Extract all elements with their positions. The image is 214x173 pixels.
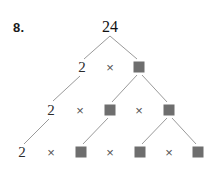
tree-edge-row2-rbox-to-bbox1 <box>142 118 167 144</box>
tree-edge-root-to-right-box <box>110 36 137 59</box>
row3-item4-blank-square[interactable] <box>135 147 146 158</box>
tree-root-number: 24 <box>102 18 118 36</box>
row2-item4-blank-square[interactable] <box>164 105 175 116</box>
factor-tree-worksheet: 8. 242×2××2××× <box>0 0 214 173</box>
row2-item1-multiply-sign: × <box>76 104 84 117</box>
tree-edge-box1-to-right-box <box>142 75 167 102</box>
row2-item0-factor-number: 2 <box>47 102 55 119</box>
row1-item0-factor-number: 2 <box>78 59 86 76</box>
tree-edge-box1-to-left-box <box>112 75 137 102</box>
row3-item5-multiply-sign: × <box>165 146 173 159</box>
row3-item0-factor-number: 2 <box>18 144 26 161</box>
tree-edge-row2-box-to-bottom-box <box>83 118 108 144</box>
tree-edge-left2-to-left2 <box>53 76 80 101</box>
row1-item1-multiply-sign: × <box>106 61 114 74</box>
row2-item3-multiply-sign: × <box>135 104 143 117</box>
tree-edge-root-to-left-2 <box>84 36 110 59</box>
row3-item6-blank-square[interactable] <box>193 147 204 158</box>
row3-item2-blank-square[interactable] <box>76 147 87 158</box>
row2-item2-blank-square[interactable] <box>105 105 116 116</box>
row1-item2-blank-square[interactable] <box>134 62 145 73</box>
row3-item1-multiply-sign: × <box>47 146 55 159</box>
tree-edge-row2-left2-to-bottom2 <box>24 119 49 144</box>
tree-edge-row2-rbox-to-bbox2 <box>172 118 196 144</box>
row3-item3-multiply-sign: × <box>106 146 114 159</box>
